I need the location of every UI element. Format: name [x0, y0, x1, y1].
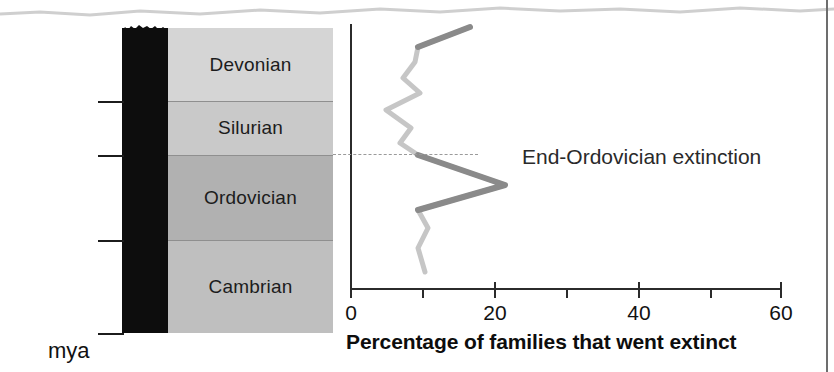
timescale-black-bar — [122, 28, 168, 333]
period-band-silurian: Silurian — [168, 101, 333, 155]
age-tick-line — [98, 101, 124, 103]
x-tick-10 — [422, 288, 424, 298]
period-band-cambrian: Cambrian — [168, 240, 333, 333]
period-band-devonian: Devonian — [168, 28, 333, 101]
period-label-silurian: Silurian — [218, 117, 283, 139]
extinction-timescale-figure: Devonian Silurian Ordovician Cambrian 41… — [0, 0, 834, 372]
age-tick-line — [98, 333, 124, 335]
x-tick-20 — [494, 282, 496, 298]
x-tick-0 — [350, 282, 352, 298]
band-rule-443 — [168, 155, 333, 156]
x-tick-60 — [780, 282, 782, 298]
page-border-right — [826, 0, 828, 372]
period-label-devonian: Devonian — [210, 54, 292, 76]
x-tick-30 — [566, 288, 568, 298]
age-tick-line — [98, 155, 124, 157]
period-band-ordovician: Ordovician — [168, 155, 333, 240]
annotation-end-ordovician-extinction: End-Ordovician extinction — [522, 145, 761, 169]
annotation-leader-line — [333, 154, 478, 155]
period-label-ordovician: Ordovician — [204, 187, 297, 209]
x-tick-label-0: 0 — [345, 301, 357, 325]
band-rule-416 — [168, 101, 333, 102]
y-axis-line — [350, 24, 352, 289]
period-label-cambrian: Cambrian — [209, 276, 293, 298]
mya-unit-label: mya — [48, 338, 90, 364]
x-axis-title: Percentage of families that went extinct — [346, 330, 736, 354]
age-tick-line — [98, 240, 124, 242]
band-rule-488 — [168, 240, 333, 241]
x-tick-label-60: 60 — [769, 301, 792, 325]
x-tick-label-20: 20 — [483, 301, 506, 325]
x-tick-label-40: 40 — [627, 301, 650, 325]
x-tick-40 — [638, 282, 640, 298]
x-tick-50 — [710, 288, 712, 298]
